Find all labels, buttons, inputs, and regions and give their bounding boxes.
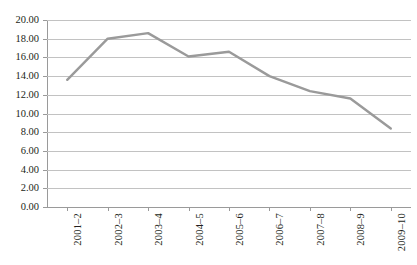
y-axis-tick-label: 4.00 xyxy=(21,165,39,175)
x-axis-tick-label: 2007–8 xyxy=(315,213,326,246)
x-axis-tick-mark xyxy=(310,207,311,211)
y-axis-tick-label: 12.00 xyxy=(15,90,39,100)
x-axis-tick-mark xyxy=(229,207,230,211)
y-axis-tick-label: 18.00 xyxy=(15,34,39,44)
y-axis-tick-label: 2.00 xyxy=(21,183,39,193)
y-axis-tick-label: 6.00 xyxy=(21,146,39,156)
y-axis-tick-label: 0.00 xyxy=(21,202,39,212)
x-axis-tick-mark xyxy=(67,207,68,211)
x-axis-tick-label: 2002–3 xyxy=(113,213,124,246)
x-axis-tick-label: 2008–9 xyxy=(355,213,366,246)
x-axis-tick-label: 2006–7 xyxy=(274,213,285,246)
plot-area xyxy=(47,20,411,207)
y-axis-tick-mark xyxy=(43,207,47,208)
x-axis-tick-label: 2001–2 xyxy=(72,213,83,246)
x-axis-tick-mark xyxy=(391,207,392,211)
y-axis-tick-label: 20.00 xyxy=(15,15,39,25)
y-axis-tick-label: 16.00 xyxy=(15,52,39,62)
x-axis-tick-mark xyxy=(350,207,351,211)
x-axis-tick-label: 2003–4 xyxy=(153,213,164,246)
x-axis-tick-mark xyxy=(269,207,270,211)
x-axis-tick-mark xyxy=(189,207,190,211)
y-axis-tick-label: 10.00 xyxy=(15,109,39,119)
x-axis-tick-mark xyxy=(108,207,109,211)
line-chart: 20.0018.0016.0014.0012.0010.008.006.004.… xyxy=(0,0,417,265)
y-axis-tick-label: 14.00 xyxy=(15,71,39,81)
x-axis-tick-label: 2004–5 xyxy=(194,213,205,246)
x-axis-tick-mark xyxy=(148,207,149,211)
x-axis-tick-label: 2005–6 xyxy=(234,213,245,246)
y-axis-tick-label: 8.00 xyxy=(21,127,39,137)
series-line xyxy=(67,33,391,128)
x-axis-tick-label: 2009–10 xyxy=(396,213,407,251)
y-axis-labels: 20.0018.0016.0014.0012.0010.008.006.004.… xyxy=(0,20,47,207)
data-series-line xyxy=(47,20,411,207)
